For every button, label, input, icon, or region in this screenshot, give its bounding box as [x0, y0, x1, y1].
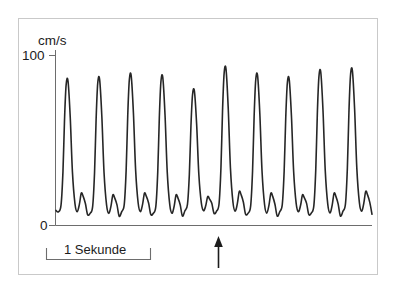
beat-marker-arrow-icon [214, 236, 223, 268]
chart-svg: cm/s 100 0 1 Sekunde [0, 0, 394, 288]
velocity-waveform-trace [56, 66, 372, 216]
figure-container: cm/s 100 0 1 Sekunde [0, 0, 394, 288]
y-tick-label-0: 0 [40, 218, 48, 233]
scale-bar-label: 1 Sekunde [64, 242, 126, 257]
y-tick-label-100: 100 [22, 48, 45, 63]
y-axis-unit-label: cm/s [38, 33, 67, 48]
